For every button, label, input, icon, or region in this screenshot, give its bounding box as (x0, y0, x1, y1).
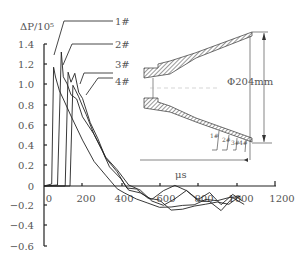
svg-text:0.4: 0.4 (18, 140, 34, 151)
svg-text:0: 0 (46, 193, 52, 204)
chart: 1.4 1.2 1.0 0.8 0.6 0.4 0.2 0 −0.2 −0.4 … (0, 0, 300, 267)
y-axis-label: ΔP/10⁵ (20, 21, 54, 32)
svg-text:200: 200 (76, 193, 95, 204)
svg-text:−0.4: −0.4 (10, 220, 34, 231)
svg-text:1#: 1# (210, 132, 219, 139)
svg-text:2#: 2# (222, 136, 231, 143)
diameter-label: Φ204mm (227, 76, 274, 87)
svg-text:600: 600 (156, 193, 175, 204)
svg-text:0.2: 0.2 (18, 160, 34, 171)
svg-text:400: 400 (114, 193, 133, 204)
legend (54, 21, 113, 95)
svg-text:−0.6: −0.6 (10, 241, 34, 252)
svg-text:−0.2: −0.2 (10, 200, 34, 211)
series-4 (44, 85, 242, 204)
x-axis (44, 181, 276, 186)
svg-text:0.6: 0.6 (18, 120, 34, 131)
svg-text:1.4: 1.4 (18, 39, 34, 50)
svg-text:2#: 2# (115, 39, 130, 50)
x-tick-labels: 0 200 400 600 800 1000 1200 (46, 193, 295, 204)
svg-text:0.8: 0.8 (18, 100, 34, 111)
y-axis (44, 44, 47, 246)
svg-text:0: 0 (28, 181, 34, 192)
y-tick-labels: 1.4 1.2 1.0 0.8 0.6 0.4 0.2 0 −0.2 −0.4 … (10, 39, 34, 252)
svg-text:1.0: 1.0 (18, 79, 34, 90)
svg-text:4#: 4# (239, 139, 248, 146)
svg-text:1.2: 1.2 (18, 59, 34, 70)
nozzle-inset: Φ204mm 1# 2# 3# 4# (140, 32, 274, 162)
svg-text:1200: 1200 (269, 193, 294, 204)
svg-text:4#: 4# (115, 76, 130, 87)
svg-text:3#: 3# (115, 59, 130, 70)
x-axis-label: μs (175, 169, 187, 180)
svg-text:1#: 1# (115, 16, 130, 27)
legend-labels: 1# 2# 3# 4# (115, 16, 130, 87)
series-3 (44, 72, 240, 210)
